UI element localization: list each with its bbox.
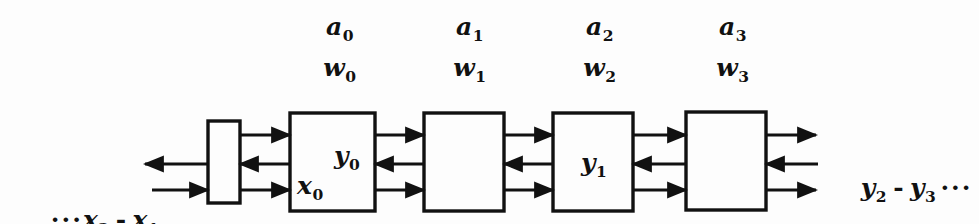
coefficient-w-subscript: 2 (605, 67, 616, 86)
coefficient-w-symbol: w (323, 53, 345, 82)
coefficient-w-subscript: 1 (475, 67, 486, 86)
left-input-first-symbol: x (83, 205, 98, 224)
left-ellipsis: ··· (51, 205, 83, 224)
left-input-dash: - (110, 205, 133, 224)
coefficient-w-subscript: 3 (738, 67, 749, 86)
stage-0-input-label: x0 (297, 173, 324, 203)
stage-1-block-rect (424, 113, 504, 211)
coefficient-label-w-2: w2 (583, 55, 616, 85)
stage-2-output-subscript: 1 (596, 162, 607, 181)
coefficient-a-symbol: a (326, 12, 343, 41)
coefficient-label-a-3: a3 (719, 14, 747, 44)
coefficient-label-w-0: w0 (323, 55, 356, 85)
coefficient-a-subscript: 3 (736, 26, 747, 45)
coefficient-w-symbol: w (453, 53, 475, 82)
coefficient-label-w-1: w1 (453, 55, 486, 85)
coefficient-label-a-0: a0 (326, 14, 354, 44)
stage-0-output-label: y0 (334, 143, 360, 173)
stage-0-output-subscript: 0 (349, 155, 360, 174)
lattice-filter-diagram: a0 w0 a1 w1 a2 w2 a3 w3 y0 x0 y1 ···x2-x… (0, 0, 979, 224)
left-input-second-subscript: 1 (148, 219, 159, 224)
stage-2-output-symbol: y (581, 148, 596, 177)
coefficient-a-symbol: a (456, 12, 473, 41)
delay-block-rect (208, 121, 240, 203)
stage-0-output-symbol: y (334, 141, 349, 170)
right-output-second-subscript: 3 (925, 187, 936, 206)
coefficient-w-symbol: w (583, 53, 605, 82)
coefficient-a-subscript: 1 (473, 26, 484, 45)
left-input-first-subscript: 2 (98, 219, 109, 224)
coefficient-label-a-1: a1 (456, 14, 484, 44)
coefficient-a-subscript: 2 (603, 26, 614, 45)
coefficient-label-w-3: w3 (716, 55, 749, 85)
coefficient-w-subscript: 0 (345, 67, 356, 86)
coefficient-a-subscript: 0 (343, 26, 354, 45)
right-output-first-symbol: y (861, 173, 876, 202)
right-output-label: y2-y3··· (824, 150, 973, 224)
right-output-second-symbol: y (910, 173, 925, 202)
left-input-label: ···x2-x1 (14, 182, 159, 224)
coefficient-w-symbol: w (716, 53, 738, 82)
coefficient-a-symbol: a (719, 12, 736, 41)
stage-2-output-label: y1 (581, 150, 607, 180)
stage-3-block-rect (686, 112, 766, 210)
stage-0-input-symbol: x (297, 171, 312, 200)
right-ellipsis: ··· (936, 173, 972, 202)
block-outlines (208, 112, 766, 211)
coefficient-label-a-2: a2 (586, 14, 614, 44)
stage-0-input-subscript: 0 (312, 185, 323, 204)
right-output-first-subscript: 2 (876, 187, 887, 206)
left-input-second-symbol: x (133, 205, 148, 224)
coefficient-a-symbol: a (586, 12, 603, 41)
right-output-dash: - (887, 173, 910, 202)
